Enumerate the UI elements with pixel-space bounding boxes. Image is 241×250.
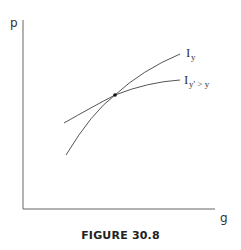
svg-text:y' > y: y' > y — [189, 79, 210, 89]
curve-i-y-prime — [64, 80, 180, 123]
curve-i-y — [66, 54, 180, 155]
intersection-point — [113, 93, 117, 97]
curve-label-i-y-prime: I y' > y — [184, 72, 210, 89]
y-axis-label: p — [10, 16, 18, 30]
svg-text:y: y — [191, 52, 196, 62]
svg-text:I: I — [186, 45, 190, 60]
curve-label-i-y: I y — [186, 45, 196, 62]
figure-caption: FIGURE 30.8 — [0, 229, 241, 242]
svg-text:I: I — [184, 72, 188, 87]
x-axis-label: g — [220, 211, 228, 225]
diagram-figure: p g I y I y' > y — [0, 0, 241, 250]
